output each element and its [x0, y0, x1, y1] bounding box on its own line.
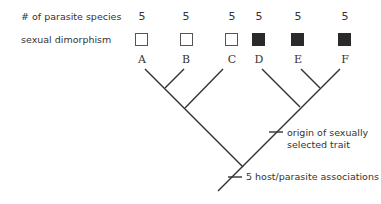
origin-line2: selected trait [287, 139, 368, 151]
origin-line1: origin of sexually [287, 127, 368, 139]
origin-annotation: origin of sexually selected trait [287, 127, 368, 151]
host-annotation: 5 host/parasite associations [246, 171, 379, 183]
